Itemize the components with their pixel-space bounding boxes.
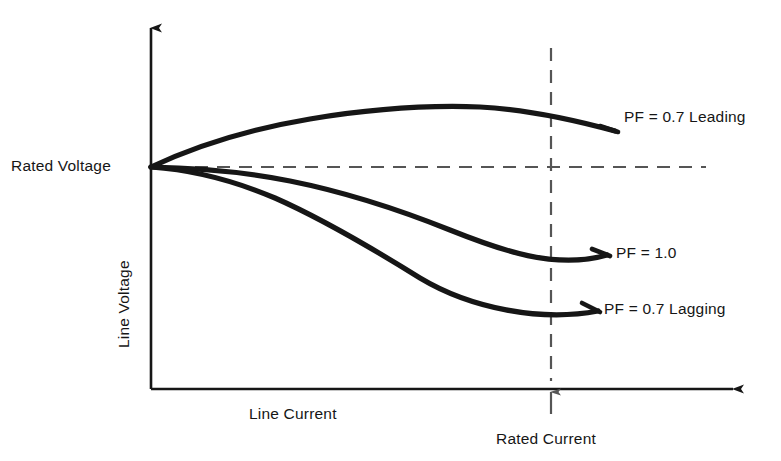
- curve-pf-0-7-lagging: [151, 167, 598, 315]
- rated-voltage-label: Rated Voltage: [11, 158, 111, 174]
- unity-label-connector: [592, 249, 610, 256]
- curve-label-leading: PF = 0.7 Leading: [624, 109, 746, 125]
- curve-label-unity: PF = 1.0: [616, 245, 677, 261]
- leading-label-connector: [600, 126, 618, 132]
- x-axis-title: Line Current: [249, 406, 337, 422]
- y-axis-title: Line Voltage: [115, 260, 133, 348]
- rated-current-label: Rated Current: [496, 431, 596, 447]
- figure-container: PF = 0.7 Leading PF = 1.0 PF = 0.7 Laggi…: [0, 0, 781, 461]
- y-axis-title-wrapper: Line Voltage: [95, 190, 121, 350]
- curve-pf-0-7-leading: [151, 107, 615, 168]
- curve-label-lagging: PF = 0.7 Lagging: [604, 301, 726, 317]
